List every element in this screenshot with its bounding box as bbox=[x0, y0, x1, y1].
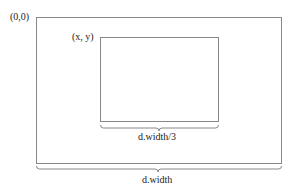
origin-label: (0,0) bbox=[10, 11, 29, 23]
outer-width-brace bbox=[37, 166, 282, 172]
diagram-canvas bbox=[0, 0, 293, 193]
inner-rectangle bbox=[101, 38, 219, 122]
inner-width-label: d.width/3 bbox=[138, 131, 176, 143]
inner-origin-label: (x, y) bbox=[72, 31, 94, 43]
outer-width-label: d.width bbox=[142, 174, 172, 186]
